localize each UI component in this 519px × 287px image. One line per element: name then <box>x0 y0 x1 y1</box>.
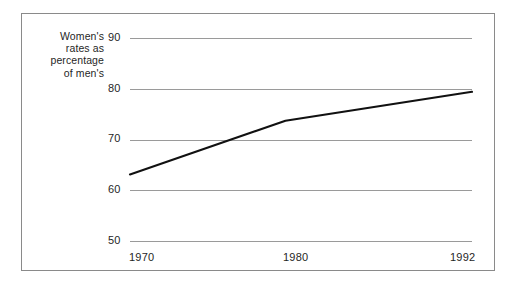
gridlines <box>130 39 472 242</box>
chart-figure: Women's rates as percentage of men's 90 … <box>0 0 519 287</box>
plot-area <box>0 0 519 287</box>
data-series-line <box>130 92 472 175</box>
